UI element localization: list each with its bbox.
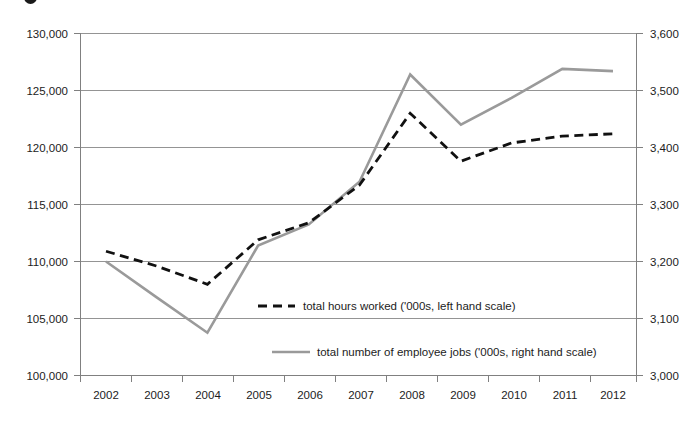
x-axis-tick-labels: 2002 2003 2004 2005 2006 2007 2008 2009 … xyxy=(93,389,626,401)
chart-legend: total hours worked ('000s, left hand sca… xyxy=(258,300,597,358)
right-axis-ticks xyxy=(637,34,643,376)
gridlines xyxy=(80,34,637,319)
legend-label-employee-jobs: total number of employee jobs ('000s, ri… xyxy=(317,346,597,358)
series-line-employee-jobs xyxy=(106,69,613,333)
left-tick-label: 100,000 xyxy=(26,370,68,382)
x-tick-label: 2010 xyxy=(501,389,527,401)
right-tick-label: 3,000 xyxy=(650,370,679,382)
x-axis-ticks xyxy=(81,376,637,382)
chart-container: 130,000 125,000 120,000 115,000 110,000 … xyxy=(0,0,696,434)
x-tick-label: 2005 xyxy=(246,389,272,401)
x-tick-label: 2012 xyxy=(600,389,626,401)
dual-axis-line-chart: 130,000 125,000 120,000 115,000 110,000 … xyxy=(0,0,696,434)
series-line-hours-worked xyxy=(106,113,613,284)
right-tick-label: 3,100 xyxy=(650,313,679,325)
x-tick-label: 2004 xyxy=(195,389,221,401)
right-tick-label: 3,600 xyxy=(650,28,679,40)
x-tick-label: 2002 xyxy=(93,389,119,401)
left-axis-ticks xyxy=(74,34,80,376)
left-tick-label: 115,000 xyxy=(27,199,68,211)
x-tick-label: 2003 xyxy=(144,389,170,401)
left-tick-label: 110,000 xyxy=(27,256,68,268)
right-tick-label: 3,200 xyxy=(650,256,679,268)
x-tick-label: 2011 xyxy=(553,389,578,401)
right-tick-label: 3,300 xyxy=(650,199,679,211)
x-tick-label: 2008 xyxy=(399,389,425,401)
left-tick-label: 125,000 xyxy=(26,85,68,97)
left-axis-tick-labels: 130,000 125,000 120,000 115,000 110,000 … xyxy=(26,28,68,382)
x-tick-label: 2006 xyxy=(297,389,323,401)
right-axis-tick-labels: 3,600 3,500 3,400 3,300 3,200 3,100 3,00… xyxy=(650,28,679,382)
right-tick-label: 3,400 xyxy=(650,142,679,154)
left-tick-label: 120,000 xyxy=(26,142,68,154)
x-tick-label: 2009 xyxy=(450,389,476,401)
x-tick-label: 2007 xyxy=(348,389,374,401)
left-tick-label: 105,000 xyxy=(26,313,68,325)
legend-label-hours-worked: total hours worked ('000s, left hand sca… xyxy=(303,300,516,312)
left-tick-label: 130,000 xyxy=(26,28,68,40)
right-tick-label: 3,500 xyxy=(650,85,679,97)
